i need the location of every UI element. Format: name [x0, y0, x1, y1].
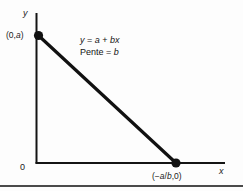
slope-line: Pente = b — [80, 46, 120, 58]
point-label-x-intercept: (−a/b,0) — [152, 172, 182, 181]
equation-line: y = a + bx — [80, 34, 120, 46]
point-marker-x-intercept — [171, 158, 180, 167]
origin-label: 0 — [20, 163, 25, 172]
bottom-divider — [0, 185, 243, 187]
point-marker-y-intercept — [34, 31, 43, 40]
equation-annotation: y = a + bx Pente = b — [80, 34, 120, 58]
x-axis-label: x — [219, 167, 224, 176]
y-axis-label: y — [23, 9, 28, 18]
graph-canvas — [0, 0, 243, 191]
figure-container: y x 0 (0,a) (−a/b,0) y = a + bx Pente = … — [0, 0, 243, 191]
point-label-y-intercept: (0,a) — [6, 31, 24, 40]
